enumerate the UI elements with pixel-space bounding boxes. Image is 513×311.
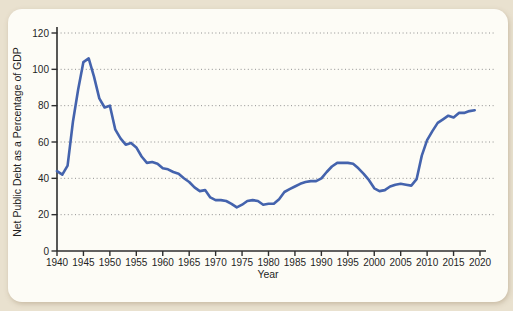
y-tick-label-60: 60 [38,137,50,148]
x-tick-label-1965: 1965 [178,257,201,268]
x-tick-label-1955: 1955 [125,257,148,268]
y-tick-label-100: 100 [32,64,49,75]
y-tick-label-120: 120 [32,28,49,39]
x-tick-label-2000: 2000 [363,257,386,268]
x-tick-label-1995: 1995 [337,257,360,268]
x-tick-label-1980: 1980 [257,257,280,268]
y-tick-label-20: 20 [38,209,50,220]
chart-card: 0204060801001201940194519501955196019651… [8,9,508,302]
debt-line-chart: 0204060801001201940194519501955196019651… [8,9,508,302]
x-tick-label-2020: 2020 [469,257,492,268]
y-tick-label-40: 40 [38,173,50,184]
x-tick-label-1950: 1950 [99,257,122,268]
tick-labels: 0204060801001201940194519501955196019651… [32,28,491,268]
data-series [57,58,475,207]
x-axis-title: Year [257,268,279,280]
x-tick-label-2005: 2005 [390,257,413,268]
page: { "page": { "background": "#e9e1cf" }, "… [0,0,513,311]
x-tick-label-1940: 1940 [46,257,69,268]
x-tick-label-1985: 1985 [284,257,307,268]
x-tick-label-1970: 1970 [205,257,228,268]
y-tick-label-0: 0 [43,246,49,257]
x-tick-label-2010: 2010 [416,257,439,268]
y-tick-label-80: 80 [38,100,50,111]
x-tick-label-2015: 2015 [442,257,465,268]
x-tick-label-1975: 1975 [231,257,254,268]
x-tick-label-1990: 1990 [310,257,333,268]
x-tick-label-1945: 1945 [72,257,95,268]
series-line-0 [57,58,475,207]
y-axis-title: Net Public Debt as a Percentage of GDP [11,47,23,237]
gridlines [57,33,494,215]
x-tick-label-1960: 1960 [152,257,175,268]
